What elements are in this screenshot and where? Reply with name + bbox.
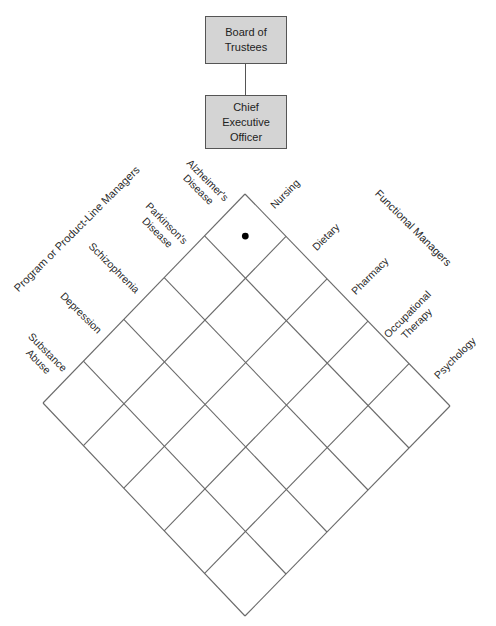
marked-cell-dot — [242, 233, 249, 240]
